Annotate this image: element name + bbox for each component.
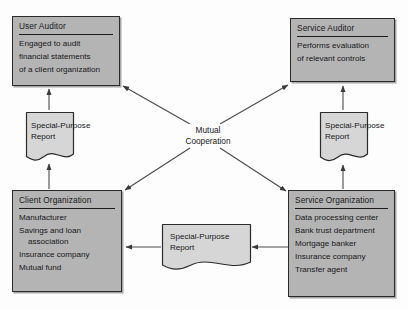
box-client-organization-line-4: Insurance company xyxy=(19,250,116,260)
box-service-organization-line-5: Transfer agent xyxy=(295,265,389,275)
connector-center-to-service-org xyxy=(220,148,286,191)
report-middle[interactable]: Special-Purpose Report xyxy=(160,222,253,274)
box-service-auditor-line-2: of relevant controls xyxy=(297,54,389,64)
box-service-auditor-rule xyxy=(297,36,388,37)
box-service-organization-title: Service Organization xyxy=(289,191,394,208)
connector-center-to-client-org xyxy=(125,148,190,190)
box-client-organization[interactable]: Client Organization Manufacturer Savings… xyxy=(12,190,122,292)
box-client-organization-rule xyxy=(19,208,115,209)
box-user-auditor-title: User Auditor xyxy=(13,17,119,34)
report-middle-line-2: Report xyxy=(170,243,229,254)
box-user-auditor-line-2: financial statements xyxy=(19,52,114,62)
center-label-line-2: Cooperation xyxy=(178,136,238,147)
box-user-auditor-lines: Engaged to audit financial statements of… xyxy=(13,36,119,78)
box-service-organization-line-1: Data processing center xyxy=(295,213,389,223)
box-client-organization-lines: Manufacturer Savings and loan associatio… xyxy=(13,210,121,276)
box-client-organization-line-1: Manufacturer xyxy=(19,213,116,223)
box-service-organization-line-3: Mortgage banker xyxy=(295,239,389,249)
box-service-organization-line-2: Bank trust department xyxy=(295,226,389,236)
box-service-auditor-line-1: Performs evaluation xyxy=(297,41,389,51)
report-left[interactable]: Special-Purpose Report xyxy=(24,110,76,164)
box-user-auditor[interactable]: User Auditor Engaged to audit financial … xyxy=(12,16,120,86)
report-left-line-2: Report xyxy=(31,132,90,143)
report-right-line-1: Special-Purpose xyxy=(325,121,384,132)
diagram-canvas: User Auditor Engaged to audit financial … xyxy=(0,0,408,309)
box-user-auditor-rule xyxy=(19,34,113,35)
box-service-organization[interactable]: Service Organization Data processing cen… xyxy=(288,190,395,297)
report-right[interactable]: Special-Purpose Report xyxy=(318,110,370,165)
report-left-label: Special-Purpose Report xyxy=(31,121,90,142)
report-right-label: Special-Purpose Report xyxy=(325,121,384,142)
report-right-line-2: Report xyxy=(325,132,384,143)
center-label-mutual-cooperation: Mutual Cooperation xyxy=(175,124,241,147)
box-service-auditor-title: Service Auditor xyxy=(291,19,394,36)
box-service-organization-lines: Data processing center Bank trust depart… xyxy=(289,210,394,278)
report-middle-line-1: Special-Purpose xyxy=(170,232,229,243)
box-client-organization-line-5: Mutual fund xyxy=(19,263,116,273)
box-client-organization-line-2: Savings and loan xyxy=(19,226,116,236)
box-service-organization-rule xyxy=(295,208,388,209)
box-service-organization-line-4: Insurance company xyxy=(295,252,389,262)
connector-center-to-user-auditor xyxy=(123,86,190,124)
box-service-auditor-lines: Performs evaluation of relevant controls xyxy=(291,38,394,67)
box-user-auditor-line-1: Engaged to audit xyxy=(19,39,114,49)
center-label-line-1: Mutual xyxy=(178,125,238,136)
box-service-auditor[interactable]: Service Auditor Performs evaluation of r… xyxy=(290,18,395,82)
report-middle-label: Special-Purpose Report xyxy=(170,232,229,253)
box-user-auditor-line-3: of a client organization xyxy=(19,65,114,75)
connector-center-to-service-auditor xyxy=(220,85,288,124)
report-left-line-1: Special-Purpose xyxy=(31,121,90,132)
box-client-organization-line-3: association xyxy=(19,237,116,247)
box-client-organization-title: Client Organization xyxy=(13,191,121,208)
